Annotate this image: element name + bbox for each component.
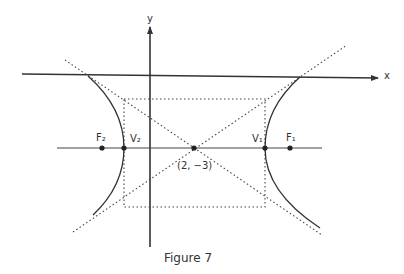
focus-f1-point — [287, 145, 292, 150]
x-axis-label: x — [384, 71, 390, 81]
vertex-v1-label: V₁ — [252, 134, 263, 144]
vertex-v2-point — [121, 145, 126, 150]
vertex-v1-point — [262, 145, 267, 150]
center-label: (2, −3) — [177, 161, 212, 171]
y-axis-label: y — [147, 14, 153, 24]
hyperbola-diagram — [0, 0, 404, 274]
center-point — [191, 145, 196, 150]
focus-f1-label: F₁ — [286, 133, 296, 143]
asymptote-ascending — [73, 45, 347, 232]
x-axis — [22, 74, 378, 78]
figure-caption: Figure 7 — [164, 252, 212, 264]
hyperbola-right-branch — [265, 77, 320, 228]
focus-f2-label: F₂ — [96, 133, 106, 143]
vertex-v2-label: V₂ — [130, 134, 141, 144]
focus-f2-point — [99, 145, 104, 150]
